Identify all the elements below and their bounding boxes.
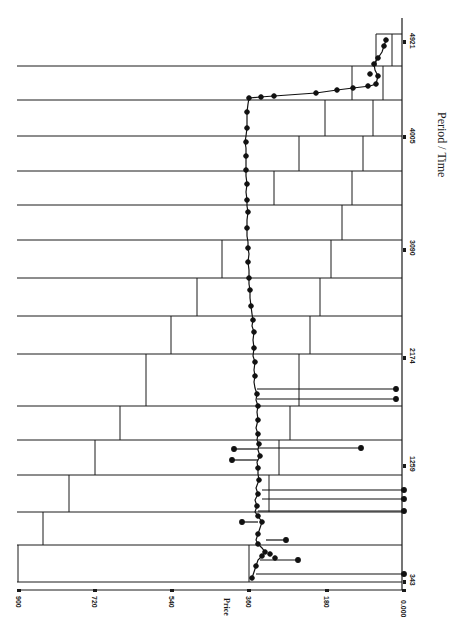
time-tick-3090: 3090 (409, 240, 416, 256)
price-tick-900: 900 (15, 596, 22, 608)
time-tick-1259: 1259 (409, 456, 416, 472)
axes (18, 18, 404, 590)
time-tick-343: 343 (409, 574, 416, 586)
time-tick-labels: 343 1259 2174 3090 4005 4921 (409, 33, 416, 586)
price-tick-720: 720 (91, 596, 98, 608)
upper-bound-steps (18, 240, 249, 582)
time-tick-4005: 4005 (409, 128, 416, 144)
price-tick-540: 540 (168, 596, 175, 608)
period-band-lines (17, 66, 402, 582)
time-tick-4921: 4921 (409, 33, 416, 49)
price-tick-labels: 900 720 540 360 180 0.000 (15, 596, 407, 618)
price-tick-0: 0.000 (400, 600, 407, 618)
time-axis-title: Period / Time (435, 112, 449, 177)
time-ticks (403, 40, 406, 584)
time-tick-2174: 2174 (409, 348, 416, 364)
price-series (230, 38, 407, 581)
outlier-trades (230, 387, 407, 577)
price-axis-title: Price (222, 598, 231, 616)
price-tick-180: 180 (323, 596, 330, 608)
rotated-price-time-chart: 900 720 540 360 180 0.000 343 1259 2174 … (0, 0, 449, 638)
price-tick-360: 360 (245, 596, 252, 608)
